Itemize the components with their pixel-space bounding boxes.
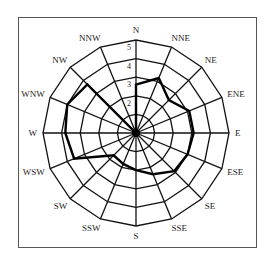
direction-label-ene: ENE xyxy=(227,89,245,99)
direction-label-wsw: WSW xyxy=(23,167,46,177)
direction-label-w: W xyxy=(29,128,38,138)
direction-label-ne: NE xyxy=(205,55,217,65)
center-hub xyxy=(132,129,140,137)
direction-label-ese: ESE xyxy=(227,167,244,177)
direction-label-sw: SW xyxy=(54,201,68,211)
direction-label-wnw: WNW xyxy=(21,89,45,99)
radial-tick-label: 5 xyxy=(127,43,131,52)
direction-label-n: N xyxy=(133,25,140,35)
direction-label-s: S xyxy=(133,231,138,241)
direction-label-ssw: SSW xyxy=(82,223,101,233)
direction-label-sse: SSE xyxy=(171,223,187,233)
direction-label-nnw: NNW xyxy=(79,33,101,43)
radial-tick-label: 3 xyxy=(127,80,131,89)
radial-tick-label: 4 xyxy=(127,62,131,71)
direction-label-nne: NNE xyxy=(171,33,190,43)
direction-label-se: SE xyxy=(205,201,216,211)
radial-tick-label: 2 xyxy=(127,99,131,108)
direction-label-nw: NW xyxy=(52,55,67,65)
wind-rose-chart: 2345 NNNENEENEEESESESSESSSWSWWSWWWNWNWNN… xyxy=(0,0,271,264)
direction-label-e: E xyxy=(235,128,241,138)
radial-tick-labels: 2345 xyxy=(127,43,131,108)
